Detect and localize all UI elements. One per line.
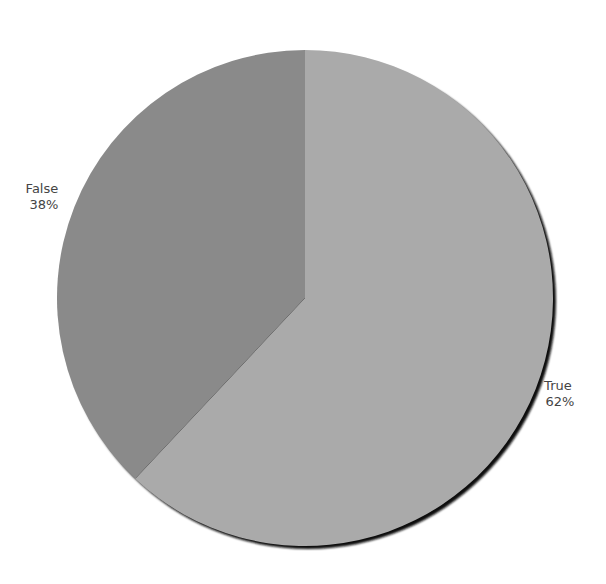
slice-label-false: False 38% [26, 181, 63, 212]
pie-chart: False 38% True 62% [0, 0, 606, 584]
slice-label-false-name: False [26, 181, 59, 196]
slice-label-false-percent: 38% [30, 197, 59, 212]
pie-chart-svg: False 38% True 62% [0, 0, 606, 584]
pie-slices [57, 50, 553, 546]
slice-label-true-percent: 62% [546, 394, 575, 409]
slice-label-true-name: True [543, 378, 572, 393]
slice-label-true: True 62% [543, 378, 576, 409]
